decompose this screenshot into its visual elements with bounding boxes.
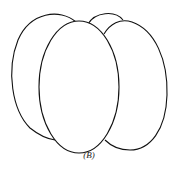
front-oval: [39, 21, 119, 153]
figure-caption: (B): [0, 150, 178, 160]
